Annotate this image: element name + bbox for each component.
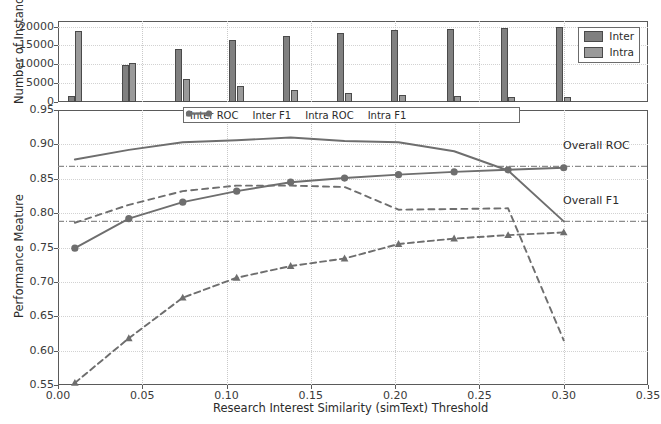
marker-circle-inter-roc [233,188,240,195]
overall-roc-label: Overall ROC [563,139,630,152]
intra-f1-line-icon [184,108,214,119]
figure-root: Number of Instance 05000100001500020000 … [0,0,661,424]
legend-item-intra-roc: Intra ROC [305,110,353,121]
legend-label-intra-f1: Intra F1 [368,110,407,121]
overall-f1-label: Overall F1 [563,194,619,207]
marker-circle-inter-roc [71,245,78,252]
marker-circle-inter-roc [395,171,402,178]
main-panel-legend: Inter ROC Inter F1 Intra ROC Intra F1 [183,107,520,123]
marker-circle-inter-roc [179,199,186,206]
marker-triangle-inter-f1 [233,274,241,281]
line-series-svg [0,0,661,424]
marker-circle-inter-roc [560,164,567,171]
marker-circle-inter-roc [451,168,458,175]
series-line-inter-f1 [75,232,564,383]
legend-label-inter-f1: Inter F1 [252,110,291,121]
legend-label-intra-roc: Intra ROC [305,110,353,121]
legend-item-intra-f1: Intra F1 [368,110,407,121]
series-line-intra-f1 [75,186,564,341]
legend-item-inter-f1: Inter F1 [252,110,291,121]
marker-circle-inter-roc [341,174,348,181]
marker-circle-inter-roc [125,215,132,222]
